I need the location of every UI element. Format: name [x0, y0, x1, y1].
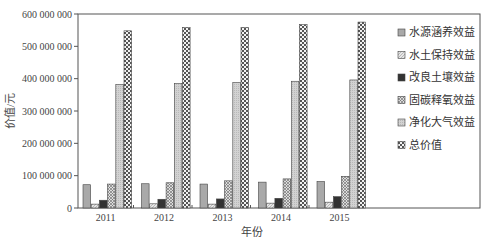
- bar-3-2012: [158, 199, 166, 208]
- bar-2-2011: [91, 204, 99, 208]
- y-tick-label: 200 000 000: [22, 138, 72, 149]
- bar-2-2013: [208, 204, 216, 208]
- legend-swatch: [398, 74, 405, 81]
- y-axis-title: 价值/元: [4, 93, 16, 129]
- bar-6-2011: [124, 31, 132, 208]
- bar-3-2015: [333, 197, 341, 208]
- legend-swatch: [398, 29, 405, 36]
- bar-chart: 0100 000 000200 000 000300 000 000400 00…: [0, 0, 487, 242]
- legend-swatch: [398, 52, 405, 59]
- legend-label: 总价值: [409, 138, 442, 151]
- legend-label: 净化大气效益: [409, 115, 475, 128]
- bars-group: [83, 22, 366, 208]
- legend-swatch: [398, 142, 405, 149]
- bar-2-2012: [150, 204, 158, 208]
- bar-5-2013: [233, 83, 241, 208]
- bar-4-2015: [342, 176, 350, 208]
- legend-swatch: [398, 119, 405, 126]
- y-tick-label: 0: [67, 203, 72, 214]
- y-tick-label: 100 000 000: [22, 170, 72, 181]
- bar-4-2011: [108, 184, 116, 208]
- x-tick-label: 2015: [330, 212, 350, 223]
- bar-2-2014: [267, 203, 275, 208]
- x-axis-title: 年份: [241, 225, 263, 238]
- bar-6-2014: [300, 25, 308, 208]
- y-tick-label: 400 000 000: [22, 73, 72, 84]
- y-tick-label: 300 000 000: [22, 106, 72, 117]
- x-tick-label: 2011: [96, 212, 116, 223]
- legend-label: 水源涵养效益: [409, 25, 475, 38]
- bar-4-2013: [225, 181, 233, 208]
- bar-5-2011: [116, 84, 124, 208]
- legend-swatch: [398, 97, 405, 104]
- bar-3-2013: [216, 199, 224, 208]
- bar-4-2014: [283, 179, 291, 208]
- bar-3-2011: [99, 200, 107, 208]
- legend: 水源涵养效益水土保持效益改良土壤效益固碳释氧效益净化大气效益总价值: [398, 25, 475, 151]
- bar-5-2014: [291, 81, 299, 208]
- bar-5-2015: [350, 80, 358, 208]
- bar-1-2013: [200, 184, 208, 208]
- bar-6-2012: [183, 28, 191, 208]
- y-axis: 0100 000 000200 000 000300 000 000400 00…: [22, 9, 78, 214]
- y-tick-label: 500 000 000: [22, 41, 72, 52]
- x-tick-label: 2013: [213, 212, 233, 223]
- bar-1-2011: [83, 185, 91, 208]
- x-tick-label: 2014: [271, 212, 291, 223]
- bar-6-2015: [358, 22, 366, 208]
- legend-label: 改良土壤效益: [409, 70, 475, 83]
- x-tick-label: 2012: [154, 212, 174, 223]
- bar-2-2015: [325, 202, 333, 208]
- plot-frame: [78, 14, 480, 208]
- bar-5-2012: [174, 84, 182, 208]
- y-tick-label: 600 000 000: [22, 9, 72, 20]
- bar-1-2012: [142, 184, 150, 208]
- bar-6-2013: [241, 28, 249, 208]
- bar-1-2015: [317, 181, 325, 208]
- bar-4-2012: [166, 183, 174, 208]
- legend-label: 水土保持效益: [409, 48, 475, 61]
- bar-1-2014: [259, 182, 267, 208]
- bar-3-2014: [275, 198, 283, 208]
- legend-label: 固碳释氧效益: [409, 93, 475, 106]
